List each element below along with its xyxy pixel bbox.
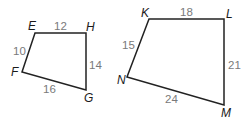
vertex-label-l: L — [226, 7, 233, 21]
quadrilateral-klmn: K L M N 18 21 24 15 — [117, 6, 241, 120]
side-label-ef: 10 — [13, 45, 26, 57]
side-label-kn: 15 — [122, 39, 135, 51]
vertex-label-h: H — [86, 20, 95, 34]
side-label-fg: 16 — [43, 83, 56, 95]
vertex-label-g: G — [84, 91, 93, 105]
vertex-label-m: M — [221, 106, 231, 120]
vertex-label-k: K — [141, 6, 150, 20]
quadrilateral-efgh: E H G F 12 14 16 10 — [11, 19, 102, 105]
side-label-eh: 12 — [54, 20, 67, 32]
side-label-kl: 18 — [180, 6, 193, 18]
side-label-lm: 21 — [228, 59, 241, 71]
side-label-hg: 14 — [89, 59, 102, 71]
vertex-label-n: N — [117, 73, 126, 87]
vertex-label-f: F — [11, 65, 19, 79]
vertex-label-e: E — [28, 19, 37, 33]
quadrilateral-efgh-outline — [22, 33, 86, 90]
quadrilaterals-diagram: E H G F 12 14 16 10 K L M N 18 21 24 15 — [0, 0, 252, 124]
side-label-nm: 24 — [165, 93, 178, 105]
